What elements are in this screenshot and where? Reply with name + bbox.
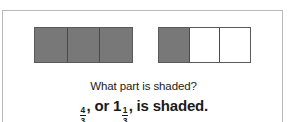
bar-model-1 bbox=[34, 27, 133, 63]
bar-model-1-cell-1 bbox=[35, 28, 68, 62]
bar-model-1-cell-2 bbox=[68, 28, 101, 62]
bar-models-row bbox=[3, 11, 284, 73]
mixed-number-whole: 1 bbox=[113, 97, 121, 114]
mixed-number-fraction-one-third: 1 3 bbox=[122, 106, 128, 122]
improper-fraction-denominator: 3 bbox=[80, 116, 86, 122]
answer-suffix: , is shaded. bbox=[129, 97, 208, 114]
bar-model-2-cell-3 bbox=[220, 28, 250, 62]
bar-model-2-cell-1 bbox=[159, 28, 190, 62]
bar-model-1-cell-3 bbox=[100, 28, 132, 62]
answer-separator: , or bbox=[87, 97, 114, 114]
bar-model-2-cell-2 bbox=[190, 28, 221, 62]
fraction-figure: What part is shaded? 4 3 , or 1 1 3 , is… bbox=[0, 0, 306, 122]
answer-text: 4 3 , or 1 1 3 , is shaded. bbox=[3, 97, 284, 122]
improper-fraction-four-thirds: 4 3 bbox=[80, 106, 86, 122]
mixed-number-denominator: 3 bbox=[122, 116, 128, 122]
improper-fraction-numerator: 4 bbox=[80, 106, 86, 116]
mixed-number-numerator: 1 bbox=[122, 106, 128, 116]
question-text: What part is shaded? bbox=[3, 80, 284, 92]
figure-frame: What part is shaded? 4 3 , or 1 1 3 , is… bbox=[2, 10, 283, 122]
bar-model-2 bbox=[158, 27, 251, 63]
